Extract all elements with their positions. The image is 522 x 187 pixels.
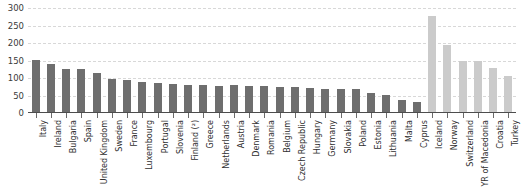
x-label-slot: Austria	[226, 119, 241, 185]
x-label-slot: Slovakia	[333, 119, 348, 185]
y-axis-tick-label: 200	[8, 39, 24, 48]
bar-slot[interactable]	[74, 8, 89, 113]
bar-slot[interactable]	[196, 8, 211, 113]
bar[interactable]	[398, 100, 406, 113]
bar-slot[interactable]	[181, 8, 196, 113]
bar-slot[interactable]	[364, 8, 379, 113]
bar[interactable]	[32, 60, 40, 113]
bar-slot[interactable]	[211, 8, 226, 113]
bar[interactable]	[382, 95, 390, 113]
tick-mark	[158, 113, 159, 118]
bar-slot[interactable]	[486, 8, 501, 113]
tick-mark	[508, 113, 509, 118]
bar-slot[interactable]	[425, 8, 440, 113]
bar-slot[interactable]	[150, 8, 165, 113]
bar-slot[interactable]	[272, 8, 287, 113]
bar[interactable]	[199, 85, 207, 113]
y-axis-tick-label: 150	[8, 56, 24, 65]
tick-mark	[478, 113, 479, 118]
bar[interactable]	[337, 89, 345, 114]
bar-slot[interactable]	[226, 8, 241, 113]
tick-mark	[97, 113, 98, 118]
bar[interactable]	[123, 80, 131, 113]
bar-slot[interactable]	[379, 8, 394, 113]
bar-slot[interactable]	[135, 8, 150, 113]
tick-mark	[51, 113, 52, 118]
tick-mark	[386, 113, 387, 118]
x-label-slot: Cyprus	[409, 119, 424, 185]
bar[interactable]	[291, 87, 299, 113]
bar[interactable]	[77, 69, 85, 113]
y-axis-tick-label: 0	[19, 109, 24, 118]
bar-slot[interactable]	[287, 8, 302, 113]
bar-slot[interactable]	[257, 8, 272, 113]
bar-slot[interactable]	[440, 8, 455, 113]
tick-mark	[249, 113, 250, 118]
x-label-slot: Luxembourg	[135, 119, 150, 185]
bar[interactable]	[245, 86, 253, 113]
tick-mark	[264, 113, 265, 118]
bar[interactable]	[93, 73, 101, 113]
bar[interactable]	[474, 61, 482, 114]
tick-mark	[280, 113, 281, 118]
bar-slot[interactable]	[348, 8, 363, 113]
x-label-slot: Switzerland	[455, 119, 470, 185]
x-label-slot: Germany	[318, 119, 333, 185]
bar[interactable]	[321, 89, 329, 114]
bar[interactable]	[459, 61, 467, 114]
bar-slot[interactable]	[165, 8, 180, 113]
bar-slot[interactable]	[318, 8, 333, 113]
x-axis-labels: ItalyIrelandBulgariaSpainUnited KingdomS…	[28, 119, 516, 185]
x-label-slot: Poland	[348, 119, 363, 185]
y-axis-tick-label: 250	[8, 21, 24, 30]
tick-mark	[173, 113, 174, 118]
bar[interactable]	[367, 93, 375, 113]
x-label-slot: Norway	[440, 119, 455, 185]
bar[interactable]	[443, 45, 451, 113]
x-label-slot: Finland (²)	[181, 119, 196, 185]
bar[interactable]	[184, 85, 192, 113]
bar[interactable]	[276, 87, 284, 113]
x-label-slot: Slovenia	[165, 119, 180, 185]
bar-slot[interactable]	[394, 8, 409, 113]
bar-slot[interactable]	[470, 8, 485, 113]
bar-slot[interactable]	[89, 8, 104, 113]
bar-slot[interactable]	[43, 8, 58, 113]
tick-mark	[295, 113, 296, 118]
x-label-slot: Italy	[28, 119, 43, 185]
tick-mark	[203, 113, 204, 118]
bar-slot[interactable]	[28, 8, 43, 113]
bar-slot[interactable]	[303, 8, 318, 113]
x-label-slot: Czech Republic	[287, 119, 302, 185]
bar-slot[interactable]	[120, 8, 135, 113]
bar[interactable]	[138, 82, 146, 114]
bar-slot[interactable]	[59, 8, 74, 113]
tick-mark	[493, 113, 494, 118]
bar-slot[interactable]	[242, 8, 257, 113]
bar-slot[interactable]	[333, 8, 348, 113]
x-label-slot: Iceland	[425, 119, 440, 185]
y-axis-tick-label: 300	[8, 4, 24, 13]
bar-slot[interactable]	[455, 8, 470, 113]
bar-slot[interactable]	[104, 8, 119, 113]
bar[interactable]	[47, 64, 55, 113]
bar[interactable]	[504, 76, 512, 113]
bar[interactable]	[352, 89, 360, 113]
bar-slot[interactable]	[501, 8, 516, 113]
bar-chart: 050100150200250300 ItalyIrelandBulgariaS…	[0, 0, 522, 187]
x-label-slot: FYR of Macedonia	[470, 119, 485, 185]
bar[interactable]	[169, 84, 177, 113]
x-label-slot: Bulgaria	[59, 119, 74, 185]
bar[interactable]	[154, 83, 162, 113]
bar[interactable]	[230, 85, 238, 113]
bar-slot[interactable]	[409, 8, 424, 113]
x-label-slot: Romania	[257, 119, 272, 185]
tick-mark	[432, 113, 433, 118]
bar[interactable]	[428, 16, 436, 113]
bar[interactable]	[62, 69, 70, 113]
bar[interactable]	[306, 88, 314, 113]
bar[interactable]	[215, 86, 223, 113]
bar[interactable]	[108, 79, 116, 113]
bar[interactable]	[489, 68, 497, 114]
bar[interactable]	[260, 86, 268, 113]
